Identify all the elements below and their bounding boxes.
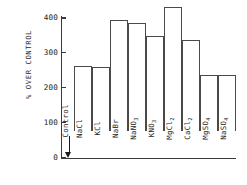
- bar: NaSO4: [218, 75, 236, 131]
- bar-label: KCl: [94, 121, 101, 135]
- bar-label: MgCl2: [166, 117, 173, 140]
- bar-label-subscript: 3: [150, 119, 156, 123]
- bar-label-subscript: 2: [186, 117, 192, 121]
- bar-label-formula: KCl: [93, 121, 102, 135]
- bar: NaBr: [110, 20, 128, 131]
- bar: KCl: [92, 67, 110, 131]
- bar: KNO3: [146, 36, 164, 131]
- bar-label-subscript: 4: [204, 117, 210, 121]
- control-arrow-shaft: [69, 136, 70, 152]
- bar-chart: % OVER CONTROL 4003002001000 NaClKClNaBr…: [0, 0, 247, 185]
- bar-label-formula: MgSO: [201, 120, 210, 139]
- bar-label: CaCl2: [184, 117, 191, 140]
- bar-label-formula: MgCl: [165, 120, 174, 139]
- bar-label-formula: NaBr: [111, 119, 120, 138]
- control-annotation: Control: [64, 96, 78, 158]
- y-tick-label: 200: [28, 84, 58, 92]
- bar-label: NaSO4: [220, 117, 227, 140]
- bar: NaNO3: [128, 23, 146, 131]
- bar-label-subscript: 3: [132, 117, 138, 121]
- bar-label: KNO3: [148, 119, 155, 137]
- y-tick-label: 300: [28, 49, 58, 57]
- bar-label-subscript: 2: [168, 117, 174, 121]
- y-tick-label: 100: [28, 119, 58, 127]
- bars-container: NaClKClNaBrNaNO3KNO3MgCl2CaCl2MgSO4NaSO4: [62, 0, 236, 158]
- bar: MgSO4: [200, 75, 218, 131]
- bar: CaCl2: [182, 40, 200, 131]
- bar-label: NaBr: [112, 119, 119, 138]
- control-label: Control: [62, 104, 69, 137]
- y-tick-label: 400: [28, 14, 58, 22]
- bar-label-formula: NaNO: [129, 120, 138, 139]
- bar-label-formula: NaSO: [219, 120, 228, 139]
- bar-label: NaNO3: [130, 117, 137, 140]
- bar-label-formula: KNO: [147, 123, 156, 137]
- bar-label-subscript: 4: [222, 117, 228, 121]
- bar-label-formula: CaCl: [183, 120, 192, 139]
- control-arrow-head-icon: [65, 152, 71, 158]
- y-tick-label: 0: [28, 154, 58, 162]
- bar: MgCl2: [164, 7, 182, 131]
- bar-label: MgSO4: [202, 117, 209, 140]
